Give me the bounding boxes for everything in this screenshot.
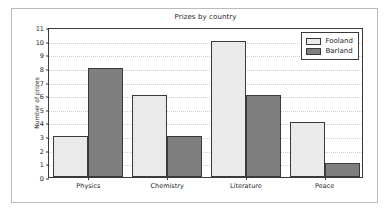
bar [211, 41, 246, 177]
legend-swatch [306, 38, 321, 45]
x-tick-label: Chemistry [151, 182, 184, 190]
legend-item: Fooland [306, 36, 353, 46]
x-tick-mark [246, 177, 247, 180]
chart-title: Prizes by country [48, 13, 363, 21]
figure: Prizes by country 01234567891011 Number … [0, 0, 391, 213]
legend-label: Fooland [326, 37, 353, 45]
bar [53, 136, 88, 177]
x-tick-label: Literature [230, 182, 262, 190]
legend-item: Barland [306, 46, 353, 56]
legend-label: Barland [326, 47, 353, 55]
y-axis-label: Number of prizes [33, 77, 40, 129]
bar [88, 68, 123, 177]
bar [246, 95, 281, 177]
bar [167, 136, 202, 177]
plot-area: 01234567891011 Number of prizes PhysicsC… [48, 28, 363, 178]
x-tick-label: Physics [76, 182, 100, 190]
legend: FoolandBarland [301, 32, 359, 60]
y-tick-mark [46, 179, 49, 180]
x-tick-mark [88, 177, 89, 180]
legend-swatch [306, 48, 321, 55]
bar [290, 122, 325, 177]
bar [132, 95, 167, 177]
x-tick-label: Peace [315, 182, 334, 190]
x-tick-mark [325, 177, 326, 180]
x-tick-mark [167, 177, 168, 180]
bar [325, 163, 360, 177]
